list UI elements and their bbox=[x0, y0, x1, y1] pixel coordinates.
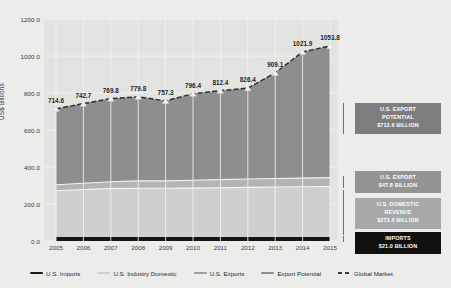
y-axis-tick-label: 1000.0 bbox=[20, 53, 40, 60]
data-point-label: 812.4 bbox=[212, 79, 228, 86]
x-axis-tick-label: 2005 bbox=[49, 244, 63, 251]
y-axis-tick-label: 200.0 bbox=[24, 201, 40, 208]
annotation-line-2: REVENUE bbox=[357, 209, 439, 217]
x-axis-tick-label: 2013 bbox=[268, 244, 282, 251]
legend-label: U.S. Industry Domestic bbox=[113, 270, 176, 277]
legend-item-export-potential[interactable]: Export Potential bbox=[261, 269, 321, 278]
legend-label: Export Potential bbox=[277, 270, 321, 277]
annotation-export-potential: U.S. EXPORT POTENTIAL $712.8 BILLION bbox=[355, 103, 441, 134]
bracket-imports bbox=[343, 236, 344, 242]
data-point-label: 909.1 bbox=[267, 61, 283, 68]
data-point-label: 757.3 bbox=[158, 89, 174, 96]
x-axis-ticks: 2005200620072008200920102011201220132014… bbox=[44, 244, 338, 256]
annotation-line-1: U.S. EXPORT bbox=[357, 174, 439, 182]
x-axis-tick-label: 2011 bbox=[214, 244, 227, 251]
data-point-label: 796.4 bbox=[185, 82, 201, 89]
data-point-label: 826.4 bbox=[240, 76, 256, 83]
x-axis-tick-label: 2009 bbox=[159, 244, 173, 251]
legend-label: Global Market bbox=[354, 270, 393, 277]
legend-key-icon bbox=[30, 269, 43, 278]
annotation-line-2: $47.8 BILLION bbox=[357, 182, 439, 190]
data-point-label: 714.6 bbox=[48, 97, 64, 104]
y-axis-tick-label: 800.0 bbox=[24, 90, 40, 97]
chart-container: 0.0200.0400.0600.0800.01000.01200.0 US$ … bbox=[0, 0, 451, 288]
legend-key-icon bbox=[261, 269, 274, 278]
data-point-label: 1053.8 bbox=[320, 34, 340, 41]
y-axis-tick-label: 0.0 bbox=[31, 238, 40, 245]
legend-item-u-s-exports[interactable]: U.S. Exports bbox=[194, 269, 245, 278]
x-axis-tick-label: 2007 bbox=[104, 244, 118, 251]
annotation-line-3: $712.8 BILLION bbox=[357, 122, 439, 130]
annotation-line-1: U.S. DOMESTIC bbox=[357, 201, 439, 209]
y-axis-tick-label: 1200.0 bbox=[20, 16, 40, 23]
annotation-us-export: U.S. EXPORT $47.8 BILLION bbox=[355, 171, 441, 193]
annotation-us-domestic-revenue: U.S. DOMESTIC REVENUE $273.6 BILLION bbox=[355, 198, 441, 229]
chart-plot-svg bbox=[44, 19, 338, 241]
x-axis-tick-label: 2010 bbox=[186, 244, 200, 251]
legend-label: U.S. Imports bbox=[46, 270, 80, 277]
bracket-us-domestic-revenue bbox=[343, 190, 344, 235]
annotation-line-1: U.S. EXPORT bbox=[357, 106, 439, 114]
y-axis-ticks: 0.0200.0400.0600.0800.01000.01200.0 bbox=[0, 19, 40, 241]
plot-area bbox=[44, 19, 338, 241]
annotation-line-1: IMPORTS bbox=[357, 235, 439, 243]
legend-key-icon bbox=[194, 269, 207, 278]
x-axis-tick-label: 2014 bbox=[296, 244, 310, 251]
annotation-line-2: POTENTIAL bbox=[357, 114, 439, 122]
legend-item-u-s-industry-domestic[interactable]: U.S. Industry Domestic bbox=[97, 269, 176, 278]
data-point-label: 1021.9 bbox=[293, 40, 313, 47]
annotation-line-3: $273.6 BILLION bbox=[357, 217, 439, 225]
chart-legend: U.S. ImportsU.S. Industry DomesticU.S. E… bbox=[30, 266, 430, 280]
bracket-us-export bbox=[343, 176, 344, 188]
data-point-label: 742.7 bbox=[75, 92, 91, 99]
data-point-label: 769.8 bbox=[103, 87, 119, 94]
annotation-line-2: $21.0 BILLION bbox=[357, 243, 439, 251]
y-axis-label: US$ Billions bbox=[0, 83, 5, 120]
x-axis-tick-label: 2012 bbox=[241, 244, 255, 251]
data-point-label: 779.8 bbox=[130, 85, 146, 92]
legend-label: U.S. Exports bbox=[210, 270, 245, 277]
annotation-imports: IMPORTS $21.0 BILLION bbox=[355, 232, 441, 254]
x-axis-tick-label: 2006 bbox=[77, 244, 91, 251]
x-axis-tick-label: 2015 bbox=[323, 244, 337, 251]
legend-item-global-market[interactable]: Global Market bbox=[338, 269, 393, 278]
y-axis-tick-label: 400.0 bbox=[24, 164, 40, 171]
bracket-export-potential bbox=[343, 103, 344, 134]
y-axis-tick-label: 600.0 bbox=[24, 127, 40, 134]
legend-item-u-s-imports[interactable]: U.S. Imports bbox=[30, 269, 80, 278]
legend-key-icon bbox=[338, 269, 351, 278]
legend-key-icon bbox=[97, 269, 110, 278]
x-axis-tick-label: 2008 bbox=[131, 244, 145, 251]
